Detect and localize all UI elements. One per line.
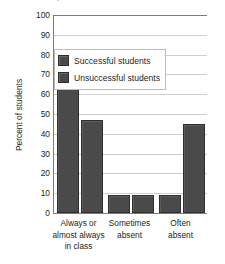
legend-label: Successful students [74,56,150,66]
y-tick-label-10: 10 [41,188,50,198]
y-tick-label-50: 50 [41,109,50,119]
clipped-title-text: Relationship between attendance and succ… [14,0,194,1]
y-tick-label-60: 60 [41,89,50,99]
bar-groups [54,15,207,213]
bar [159,195,181,213]
y-tick-label-70: 70 [41,69,50,79]
bar [81,120,103,213]
y-tick-label-30: 30 [41,149,50,159]
bar-group [54,15,105,213]
bar-group [156,15,207,213]
clipped-title-strip: Relationship between attendance and succ… [0,0,225,7]
bar [108,195,130,213]
x-category-label-line: in class [47,241,110,253]
bar-group [105,15,156,213]
y-tick-label-20: 20 [41,168,50,178]
y-tick-label-90: 90 [41,30,50,40]
legend-swatch-icon [58,55,69,66]
x-category-label: Oftenabsent [149,218,212,241]
y-axis-title: Percent of students [14,60,24,170]
y-tick-label-40: 40 [41,129,50,139]
x-category-label-line: Often [149,218,212,230]
legend-swatch-icon [58,72,69,83]
chart-legend: Successful studentsUnsuccessful students [54,49,166,90]
y-tick-label-0: 0 [45,208,50,218]
bar [183,124,205,213]
bar-chart-figure: Percent of students 01020304050607080901… [0,7,225,264]
bar [132,195,154,213]
legend-label: Unsuccessful students [74,73,160,83]
y-tick-label-80: 80 [41,50,50,60]
legend-item-1: Successful students [58,52,160,69]
x-axis-category-labels: Always oralmost alwaysin classSometimesa… [53,218,207,264]
plot-area: 0102030405060708090100 [53,15,207,214]
x-category-label-line: absent [149,230,212,242]
legend-item-2: Unsuccessful students [58,69,160,86]
y-tick-label-100: 100 [36,10,50,20]
